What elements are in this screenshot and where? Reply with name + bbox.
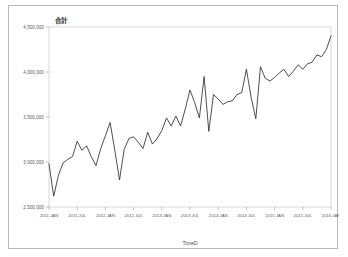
x-tick-label: 2011.JAN bbox=[40, 213, 59, 218]
x-tick-label: 2016.JAN bbox=[322, 213, 339, 218]
y-tick-label: 4,000,000 bbox=[23, 70, 44, 75]
chart-title: 合計 bbox=[54, 16, 68, 25]
y-tick-label: 3,000,000 bbox=[23, 160, 44, 165]
x-tick-label: 2013.JUL bbox=[181, 213, 200, 218]
x-tick-label: 2014.JUL bbox=[237, 213, 256, 218]
chart-area: 合計 4,500,0004,000,0003,500,0003,000,0002… bbox=[9, 6, 339, 250]
x-tick-label: 2012.JAN bbox=[96, 213, 115, 218]
x-tick-label: 2013.JAN bbox=[152, 213, 171, 218]
y-tick-label: 4,500,000 bbox=[23, 25, 44, 30]
y-tick-label: 2,500,000 bbox=[23, 205, 44, 210]
y-axis-ticks: 4,500,0004,000,0003,500,0003,000,0002,50… bbox=[23, 25, 49, 210]
x-axis-title: TimeD bbox=[182, 240, 197, 246]
x-tick-label: 2012.JUL bbox=[124, 213, 143, 218]
chart-card: 合計 4,500,0004,000,0003,500,0003,000,0002… bbox=[8, 5, 338, 249]
line-chart: 合計 4,500,0004,000,0003,500,0003,000,0002… bbox=[9, 6, 339, 250]
plot-frame bbox=[49, 27, 331, 207]
x-tick-label: 2015.JAN bbox=[265, 213, 284, 218]
y-tick-label: 3,500,000 bbox=[23, 115, 44, 120]
x-tick-label: 2011.JUL bbox=[68, 213, 87, 218]
x-tick-label: 2014.JAN bbox=[209, 213, 228, 218]
x-tick-label: 2015.JUL bbox=[294, 213, 313, 218]
x-axis-ticks: 2011.JAN2011.JUL2012.JAN2012.JUL2013.JAN… bbox=[40, 207, 339, 218]
